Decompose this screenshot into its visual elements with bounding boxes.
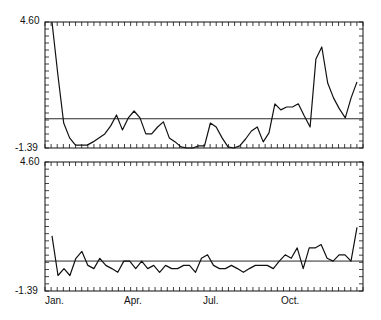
- plot-frame: [45, 162, 363, 291]
- top-ymin-label: -1.39: [15, 143, 38, 153]
- xtick-label-oct: Oct.: [281, 296, 299, 306]
- xtick-label-apr: Apr.: [124, 296, 142, 306]
- chart-canvas: [0, 0, 381, 320]
- bottom-ymax-label: 4.60: [20, 157, 39, 167]
- plot-frame: [45, 22, 363, 148]
- xtick-label-jul: Jul.: [203, 296, 219, 306]
- bottom-panel: [45, 162, 363, 291]
- bottom-ymin-label: -1.39: [15, 286, 38, 296]
- data-series-line: [52, 22, 357, 148]
- top-panel: [45, 22, 363, 148]
- xtick-label-jan: Jan.: [45, 296, 64, 306]
- top-ymax-label: 4.60: [20, 16, 39, 26]
- data-series-line: [52, 227, 357, 275]
